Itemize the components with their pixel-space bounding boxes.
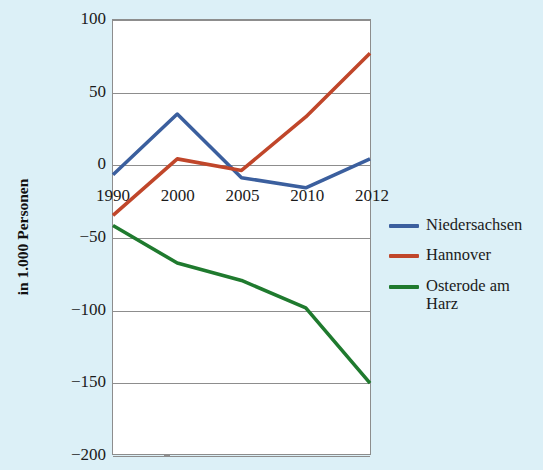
legend-item[interactable]: Osterode am Harz [389,277,541,314]
y-axis-tick-label: 0 [60,155,106,172]
y-axis-title: in 1.000 Personen [14,142,32,332]
legend: NiedersachsenHannoverOsterode am Harz [389,216,541,326]
legend-item[interactable]: Hannover [389,246,541,264]
legend-swatch-icon [389,254,419,258]
series-line [113,225,370,383]
y-axis-tick-label: −150 [60,373,106,390]
legend-item-label: Niedersachsen [426,216,522,234]
y-axis-tick-label: 100 [60,10,106,27]
legend-swatch-icon [389,224,419,228]
legend-item[interactable]: Niedersachsen [389,216,541,234]
y-axis-tick-label: −100 [60,301,106,318]
legend-swatch-icon [389,285,419,289]
series-line [113,114,370,188]
series-line [113,53,370,215]
line-chart: in 1.000 Personen 100500−50−100−150−200 … [0,0,543,470]
y-axis-tick-label: 50 [60,83,106,100]
series-lines [113,20,370,454]
legend-item-label: Hannover [426,246,491,264]
plot-area: 19902000200520102012 [112,19,371,455]
y-axis-ticks: 100500−50−100−150−200 [58,0,106,470]
gridline [113,456,370,457]
legend-item-label: Osterode am Harz [426,277,538,314]
y-axis-tick-label: −50 [60,228,106,245]
y-axis-tick-label: −200 [60,446,106,463]
